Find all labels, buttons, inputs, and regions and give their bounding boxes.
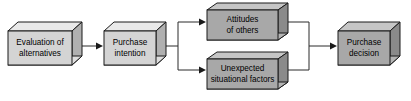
box-top-face	[207, 52, 288, 59]
box-top-face	[338, 22, 400, 31]
node-attitudes-of-others[interactable]: Attitudes of others	[207, 3, 288, 40]
node-purchase-decision[interactable]: Purchase decision	[338, 22, 400, 65]
node-label-line-1: Purchase	[113, 38, 148, 47]
node-label-line-2: intention	[115, 49, 146, 58]
node-unexpected-situational-factors[interactable]: Unexpected situational factors	[207, 52, 288, 89]
arrowhead-to-attitudes	[199, 19, 206, 26]
box-front-face	[104, 31, 156, 65]
node-purchase-intention[interactable]: Purchase intention	[104, 22, 166, 65]
box-front-face	[8, 31, 72, 65]
arrowhead-to-unexpected	[199, 67, 206, 74]
node-label-line-2: alternatives	[19, 49, 61, 58]
box-top-face	[207, 3, 288, 10]
connector-merge-to-decision	[288, 22, 337, 70]
node-label-line-1: Unexpected	[221, 64, 265, 73]
node-evaluation-of-alternatives[interactable]: Evaluation of alternatives	[8, 22, 82, 65]
box-top-face	[104, 22, 166, 31]
node-label-line-2: situational factors	[211, 75, 275, 84]
connector-split-from-intention	[164, 19, 206, 74]
box-front-face	[338, 31, 390, 65]
box-top-face	[8, 22, 82, 31]
node-label-line-1: Evaluation of	[16, 38, 64, 47]
node-label-line-1: Attitudes	[227, 15, 259, 24]
node-label-line-2: decision	[349, 49, 379, 58]
node-label-line-2: of others	[227, 26, 259, 35]
flowchart-diagram: Evaluation of alternatives Purchase inte…	[0, 0, 411, 101]
node-label-line-1: Purchase	[347, 38, 382, 47]
arrowhead-to-decision	[330, 43, 337, 50]
